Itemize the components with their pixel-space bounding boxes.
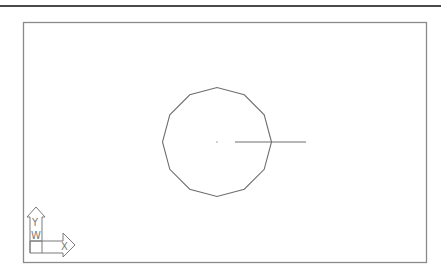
center-point[interactable] <box>216 141 218 143</box>
ucs-icon: Y W X <box>27 207 75 257</box>
drawing-canvas[interactable]: Y W X <box>0 0 448 275</box>
ucs-x-label: X <box>61 241 68 252</box>
ucs-w-label: W <box>31 230 41 241</box>
ucs-y-label: Y <box>31 217 39 228</box>
viewport-frame <box>24 23 427 263</box>
